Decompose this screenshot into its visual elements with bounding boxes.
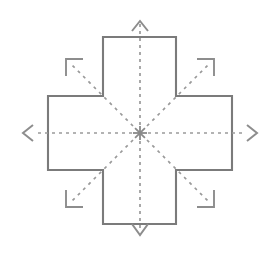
diagram-canvas [0, 0, 274, 255]
arrow-left-icon [23, 125, 33, 141]
arrow-right-icon [247, 125, 257, 141]
center-hub-icon [133, 126, 147, 140]
cross-expansion-diagram [0, 0, 274, 255]
